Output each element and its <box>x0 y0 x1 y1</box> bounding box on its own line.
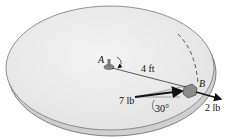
distance-label: 4 ft <box>141 64 155 74</box>
force-2lb-label: 2 lb <box>205 103 220 113</box>
disk-figure <box>0 0 231 139</box>
pivot-post <box>108 59 111 67</box>
point-b-label: B <box>199 79 205 89</box>
angle-label: 30° <box>155 104 169 114</box>
point-a-label: A <box>98 55 104 65</box>
force-7lb-label: 7 lb <box>119 96 134 106</box>
rotating-disk-diagram: A B 4 ft 7 lb 30° 2 lb <box>0 0 231 139</box>
